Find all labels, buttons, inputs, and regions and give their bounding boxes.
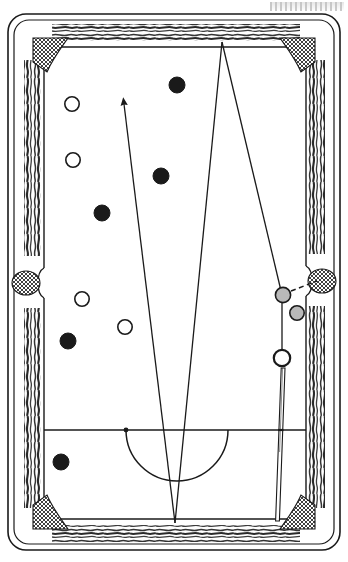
rail-left-upper-grain (24, 60, 41, 256)
rail-left-lower-grain (24, 308, 41, 508)
ball-hollow[interactable] (66, 153, 80, 167)
rail-right-lower-grain (308, 306, 325, 508)
rail-right-upper-grain (308, 60, 325, 254)
pool-table-diagram (0, 0, 348, 562)
ball-hollow[interactable] (65, 97, 79, 111)
pocket-side-left[interactable] (12, 271, 40, 295)
ball-solid[interactable] (94, 205, 110, 221)
ball-shaded[interactable] (290, 306, 304, 320)
ball-shaded-target[interactable] (275, 287, 290, 302)
ball-solid[interactable] (169, 77, 185, 93)
pocket-side-right[interactable] (308, 269, 336, 293)
rail-bottom-grain (52, 525, 300, 542)
ball-solid[interactable] (60, 333, 76, 349)
ball-hollow[interactable] (118, 320, 132, 334)
cue-ball[interactable] (274, 350, 290, 366)
ball-solid[interactable] (153, 168, 169, 184)
rail-top-grain (52, 24, 300, 41)
ball-hollow[interactable] (75, 292, 89, 306)
ball-solid[interactable] (53, 454, 69, 470)
table-drawing (0, 0, 348, 562)
